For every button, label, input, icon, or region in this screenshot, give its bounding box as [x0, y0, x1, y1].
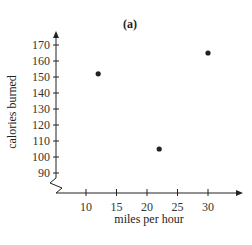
data-point [96, 71, 101, 76]
y-tick-label: 140 [32, 86, 50, 100]
axis-break-icon [50, 178, 62, 193]
y-tick-label: 170 [32, 38, 50, 52]
y-tick-label: 160 [32, 54, 50, 68]
scatter-plot: 901001101201301401501601701015202530 [0, 0, 252, 245]
y-axis-arrow-icon [53, 31, 59, 38]
data-point [205, 50, 210, 55]
y-tick-label: 120 [32, 118, 50, 132]
data-point [157, 146, 162, 151]
y-tick-label: 90 [38, 166, 50, 180]
x-tick-label: 15 [111, 200, 123, 214]
y-tick-label: 130 [32, 102, 50, 116]
x-tick-label: 20 [141, 200, 153, 214]
x-tick-label: 30 [202, 200, 214, 214]
x-tick-label: 10 [80, 200, 92, 214]
y-tick-label: 110 [32, 134, 50, 148]
x-axis-arrow-icon [236, 190, 243, 196]
x-tick-label: 25 [172, 200, 184, 214]
y-tick-label: 100 [32, 150, 50, 164]
y-tick-label: 150 [32, 70, 50, 84]
